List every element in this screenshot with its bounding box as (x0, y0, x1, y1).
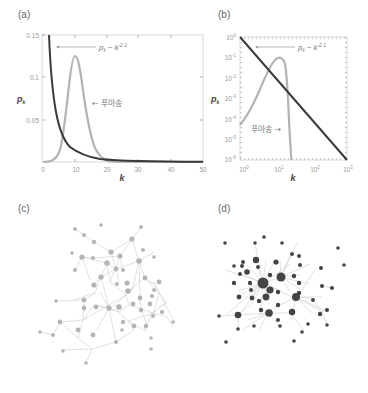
svg-text:101: 101 (274, 165, 284, 173)
chart-a-ytick-0.05: 0.05 (26, 117, 39, 124)
hub-node (265, 309, 273, 317)
svg-text:10-2: 10-2 (225, 74, 237, 82)
svg-text:103: 103 (343, 165, 353, 173)
chart-b-y-tick-labels: 100 10-1 10-2 10-3 10-4 10-5 10-6 (225, 33, 237, 163)
svg-text:pk~k-2.1: pk~k-2.1 (297, 42, 326, 53)
chart-a-ytick-0.1: 0.1 (30, 74, 39, 81)
chart-b-powerlaw-annotation: pk~k-2.1 (255, 42, 326, 53)
hub-node (277, 273, 286, 282)
hub-node (258, 278, 269, 289)
svg-text:100: 100 (226, 33, 236, 41)
chart-a-xtick-30: 30 (134, 166, 142, 173)
chart-a-ytick-0.15: 0.15 (26, 32, 39, 39)
network-d-scalefree (217, 235, 346, 344)
figure-canvas: 0.15 0.1 0.05 0 10 20 30 40 50 k pk pk~k… (0, 0, 368, 393)
chart-a-xtick-0: 0 (41, 166, 45, 173)
network-d-nodes (217, 235, 346, 344)
network-d-edges (218, 243, 331, 331)
svg-text:10-3: 10-3 (225, 94, 237, 102)
svg-text:10-4: 10-4 (225, 115, 237, 123)
chart-a-poisson-annotation: ← 푸아송 (92, 98, 122, 108)
chart-a-xlabel: k (119, 173, 125, 183)
chart-b-poisson-annotation: 푸아송 → (251, 124, 282, 134)
chart-a-poisson-curve (43, 56, 203, 162)
chart-a: 0.15 0.1 0.05 0 10 20 30 40 50 k pk pk~k… (16, 32, 207, 183)
hub-node (235, 312, 242, 319)
chart-b: 100 10-1 10-2 10-3 10-4 10-5 10-6 100 10… (210, 33, 353, 183)
chart-a-xtick-50: 50 (199, 166, 207, 173)
network-c-random (38, 223, 175, 365)
chart-a-powerlaw-curve (49, 35, 203, 162)
chart-a-ylabel: pk (16, 94, 26, 105)
svg-text:10-6: 10-6 (225, 155, 237, 163)
svg-text:10-5: 10-5 (225, 135, 237, 143)
svg-text:100: 100 (239, 165, 249, 173)
network-c-edges (40, 227, 175, 363)
svg-text:102: 102 (310, 165, 320, 173)
chart-b-poisson-curve (240, 58, 292, 160)
chart-a-powerlaw-annotation: pk~k-2.1 (56, 42, 127, 53)
chart-b-xlabel: k (290, 173, 296, 183)
network-c-nodes (38, 223, 175, 365)
svg-text:pk~k-2.1: pk~k-2.1 (98, 42, 127, 53)
chart-a-xtick-10: 10 (72, 166, 80, 173)
chart-b-ylabel: pk (210, 94, 220, 105)
chart-a-xtick-20: 20 (103, 166, 111, 173)
svg-text:10-1: 10-1 (225, 53, 237, 61)
chart-b-x-tick-labels: 100 101 102 103 (239, 165, 353, 173)
chart-a-xtick-40: 40 (167, 166, 175, 173)
